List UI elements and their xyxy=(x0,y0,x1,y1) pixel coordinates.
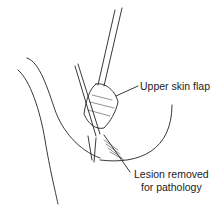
skin-flap xyxy=(84,84,118,129)
label-lesion-line2: for pathology xyxy=(141,181,202,193)
forceps-lower-b xyxy=(78,64,100,134)
leader-lesion xyxy=(104,135,130,172)
label-upper-skin-flap: Upper skin flap xyxy=(140,80,210,92)
body-contour-lower xyxy=(18,70,58,204)
leader-upper-flap xyxy=(116,86,138,96)
label-lesion-line1: Lesion removed xyxy=(134,168,209,180)
surgical-illustration: Upper skin flap Lesion removed for patho… xyxy=(0,0,217,214)
